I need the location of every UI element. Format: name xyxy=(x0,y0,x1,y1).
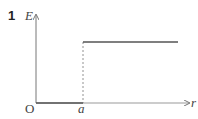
x-tick-a: a xyxy=(78,101,85,116)
x-axis-label: r xyxy=(191,95,197,110)
y-axis-label: E xyxy=(24,8,33,23)
step-graph: E O a r xyxy=(0,0,198,119)
origin-label: O xyxy=(25,101,34,116)
